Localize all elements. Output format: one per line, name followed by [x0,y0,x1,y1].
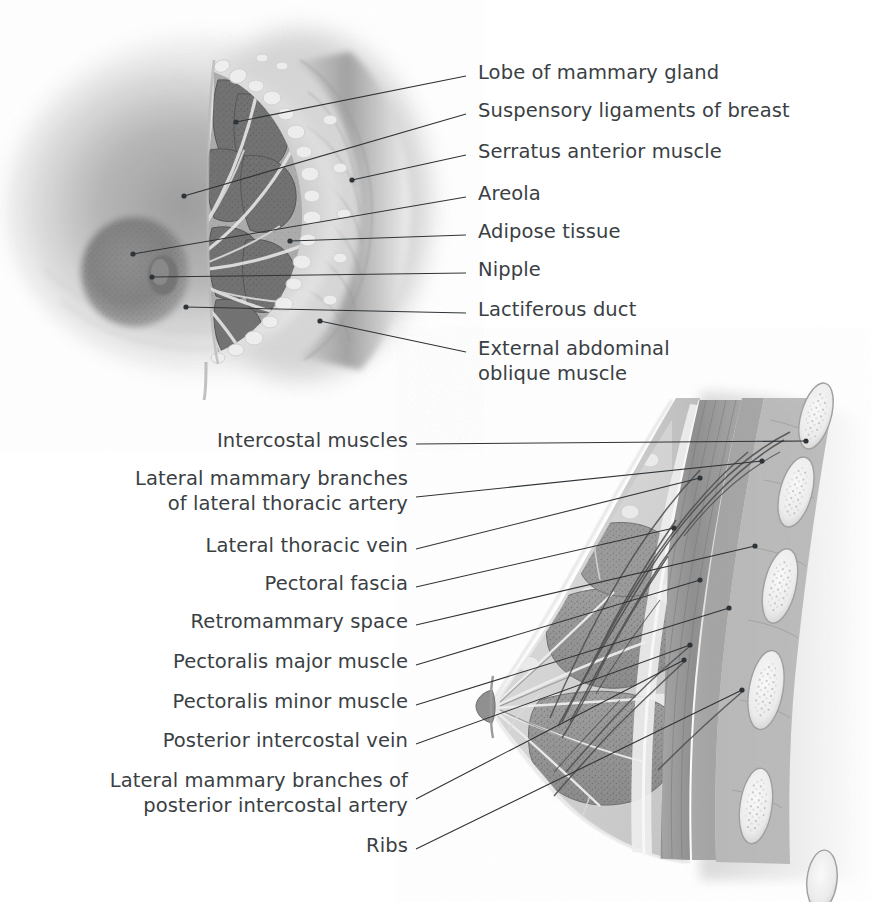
leader-line [236,76,466,122]
leader-endpoint-dot [317,318,322,323]
anatomy-label: Lateral mammary branches [0,466,408,491]
leader-line [416,441,806,444]
anatomy-label: Suspensory ligaments of breast [478,98,790,123]
leader-endpoint-dot [752,543,757,548]
anatomy-label: Ribs [0,833,408,858]
anatomy-label: Nipple [478,257,541,282]
leader-endpoint-dot [181,193,186,198]
leader-endpoint-dot [349,177,354,182]
anatomy-label: oblique muscle [478,361,627,386]
leader-endpoint-dot [726,605,731,610]
leader-line [186,307,466,313]
leader-line [184,114,466,196]
anatomy-label: Adipose tissue [478,219,621,244]
leader-line [152,273,466,277]
anatomy-label: Lateral mammary branches of [0,768,408,793]
anatomy-label: External abdominal [478,336,670,361]
leader-line [416,580,700,665]
leader-line [320,321,466,352]
anatomy-label: Serratus anterior muscle [478,139,722,164]
leader-line [416,478,700,549]
anatomy-label: posterior intercostal artery [0,793,408,818]
anatomy-label: Posterior intercostal vein [0,728,408,753]
leader-line [133,197,466,254]
leader-line [416,546,755,625]
leader-endpoint-dot [149,274,154,279]
anatomy-label: Lateral thoracic vein [0,533,408,558]
leader-line [416,645,690,744]
anatomy-label: Lactiferous duct [478,297,636,322]
leader-endpoint-dot [130,251,135,256]
leader-endpoint-dot [183,304,188,309]
leader-line [416,528,674,587]
illustration-canvas: Lobe of mammary glandSuspensory ligament… [0,0,871,902]
leader-line [416,608,729,705]
anatomy-label: Intercostal muscles [0,428,408,453]
anatomy-label: Lobe of mammary gland [478,60,719,85]
leader-endpoint-dot [697,475,702,480]
anatomy-label: Areola [478,181,541,206]
leader-line [290,235,466,241]
leader-endpoint-dot [671,525,676,530]
leader-endpoint-dot [681,657,686,662]
leader-endpoint-dot [287,238,292,243]
leader-endpoint-dot [759,458,764,463]
leader-line [352,155,466,180]
leader-endpoint-dot [697,577,702,582]
leader-endpoint-dot [803,438,808,443]
leader-endpoint-dot [687,642,692,647]
anatomy-label: Pectoralis major muscle [0,649,408,674]
anatomy-label: of lateral thoracic artery [0,491,408,516]
anatomy-label: Pectoral fascia [0,571,408,596]
leader-endpoint-dot [233,119,238,124]
anatomy-label: Pectoralis minor muscle [0,689,408,714]
anatomy-label: Retromammary space [0,609,408,634]
leader-endpoint-dot [739,687,744,692]
leader-line [416,461,762,497]
